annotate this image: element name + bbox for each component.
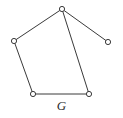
vertex-top	[59, 6, 64, 11]
graph-vertices	[11, 6, 110, 96]
vertex-bottom-right	[86, 91, 91, 96]
vertex-right	[105, 39, 110, 44]
vertex-bottom-left	[30, 91, 35, 96]
graph-figure: G	[0, 0, 123, 118]
vertex-left	[11, 38, 16, 43]
graph-edges	[14, 9, 108, 94]
edge-left-bottom-left	[14, 41, 33, 94]
edge-top-bottom-right	[62, 9, 89, 94]
graph-caption-label: G	[0, 99, 123, 113]
edge-top-left	[14, 9, 62, 41]
edge-top-right	[62, 9, 108, 42]
